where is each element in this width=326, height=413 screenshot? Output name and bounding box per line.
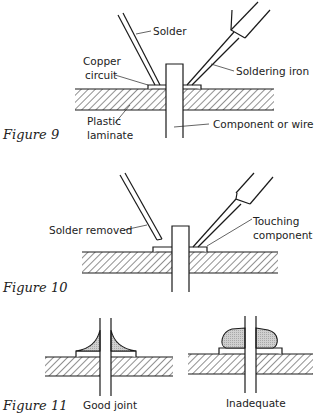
label-plastic-1: Plastic xyxy=(87,115,121,127)
figure-9-caption: Figure 9 xyxy=(2,127,59,142)
figure-11-caption: Figure 11 xyxy=(2,398,67,413)
label-plastic-2: laminate xyxy=(87,129,133,141)
component-wire xyxy=(172,226,189,292)
label-solder: Solder xyxy=(153,25,187,37)
label-copper-2: circuit xyxy=(85,69,117,81)
good-joint xyxy=(45,318,173,396)
label-touching-1: Touching xyxy=(252,215,299,227)
figure-10-caption: Figure 10 xyxy=(2,280,67,295)
figure-9: Solder Copper circuit Soldering iron Pla… xyxy=(2,2,313,142)
figure-10: Solder removed Touching component Figure… xyxy=(2,173,312,295)
inadequate-joint xyxy=(188,316,313,393)
label-solder-removed: Solder removed xyxy=(49,224,132,236)
label-copper-1: Copper xyxy=(83,55,122,67)
figure-11: Good joint Inadequate Figure 11 xyxy=(2,316,313,413)
label-component: Component or wire xyxy=(213,118,313,130)
label-soldering-iron: Soldering iron xyxy=(236,65,309,77)
label-touching-2: component xyxy=(253,229,312,241)
label-inadequate: Inadequate xyxy=(226,397,286,409)
solder-wire xyxy=(118,13,160,85)
soldering-diagram: Solder Copper circuit Soldering iron Pla… xyxy=(0,0,326,413)
label-good-joint: Good joint xyxy=(83,399,137,411)
